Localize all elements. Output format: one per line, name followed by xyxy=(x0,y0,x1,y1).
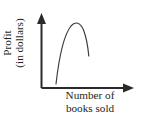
profit-curve-path xyxy=(56,23,89,84)
up-arrow-icon xyxy=(37,13,46,24)
right-arrow-icon xyxy=(123,84,134,93)
profit-graph-figure: Profit (in dollars) Number of books sold xyxy=(0,0,143,122)
graph-canvas xyxy=(0,0,143,122)
